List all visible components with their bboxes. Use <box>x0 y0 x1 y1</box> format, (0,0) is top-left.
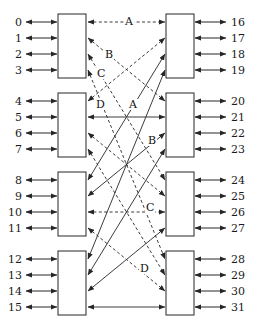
input-port-label-10: 10 <box>0 207 22 218</box>
link-group-label-A-L1: A <box>128 99 138 110</box>
network-canvas <box>0 0 254 326</box>
output-port-label-29: 29 <box>231 270 245 281</box>
input-port-label-0: 0 <box>0 17 22 28</box>
input-port-label-4: 4 <box>0 96 22 107</box>
link-group-label-D-L0: D <box>95 99 106 110</box>
input-port-label-8: 8 <box>0 175 22 186</box>
output-port-label-19: 19 <box>231 65 245 76</box>
output-port-label-17: 17 <box>231 33 245 44</box>
output-port-label-16: 16 <box>231 17 245 28</box>
output-port-label-18: 18 <box>231 49 245 60</box>
network-diagram: 0 1 2 3 4 5 6 7 8 9 10 11 12 13 14 15 16… <box>0 0 254 326</box>
input-port-label-7: 7 <box>0 144 22 155</box>
output-port-label-27: 27 <box>231 223 245 234</box>
output-port-label-28: 28 <box>231 254 245 265</box>
output-port-label-25: 25 <box>231 191 245 202</box>
switch-box-L3[interactable] <box>58 251 86 315</box>
input-port-label-2: 2 <box>0 49 22 60</box>
input-links <box>26 22 57 307</box>
switch-box-R0[interactable] <box>166 14 194 78</box>
input-port-label-11: 11 <box>0 223 22 234</box>
input-port-label-1: 1 <box>0 33 22 44</box>
switch-box-L2[interactable] <box>58 172 86 236</box>
link-group-label-B-L0: B <box>104 49 114 60</box>
switch-box-R3[interactable] <box>166 251 194 315</box>
input-port-label-5: 5 <box>0 112 22 123</box>
output-port-label-21: 21 <box>231 112 245 123</box>
output-port-label-23: 23 <box>231 144 245 155</box>
output-links <box>195 22 226 307</box>
switch-box-R2[interactable] <box>166 172 194 236</box>
output-port-label-24: 24 <box>231 175 245 186</box>
input-port-label-12: 12 <box>0 254 22 265</box>
link-group-label-A-L0: A <box>124 16 134 27</box>
link-L3-R2-C <box>88 228 165 291</box>
interconnect-links <box>88 22 165 307</box>
link-group-label-B-L1: B <box>147 135 157 146</box>
link-group-label-C-L0: C <box>96 68 106 79</box>
output-port-label-31: 31 <box>231 302 245 313</box>
input-port-label-9: 9 <box>0 191 22 202</box>
link-group-label-C-L2: C <box>145 202 155 213</box>
output-port-label-20: 20 <box>231 96 245 107</box>
input-port-label-6: 6 <box>0 128 22 139</box>
switch-box-R1[interactable] <box>166 93 194 157</box>
output-port-label-26: 26 <box>231 207 245 218</box>
switch-box-L0[interactable] <box>58 14 86 78</box>
input-port-label-14: 14 <box>0 286 22 297</box>
input-port-label-15: 15 <box>0 302 22 313</box>
input-port-label-3: 3 <box>0 65 22 76</box>
switch-box-L1[interactable] <box>58 93 86 157</box>
output-port-label-30: 30 <box>231 286 245 297</box>
output-port-label-22: 22 <box>231 128 245 139</box>
link-group-label-D-L3: D <box>139 263 150 274</box>
input-port-label-13: 13 <box>0 270 22 281</box>
